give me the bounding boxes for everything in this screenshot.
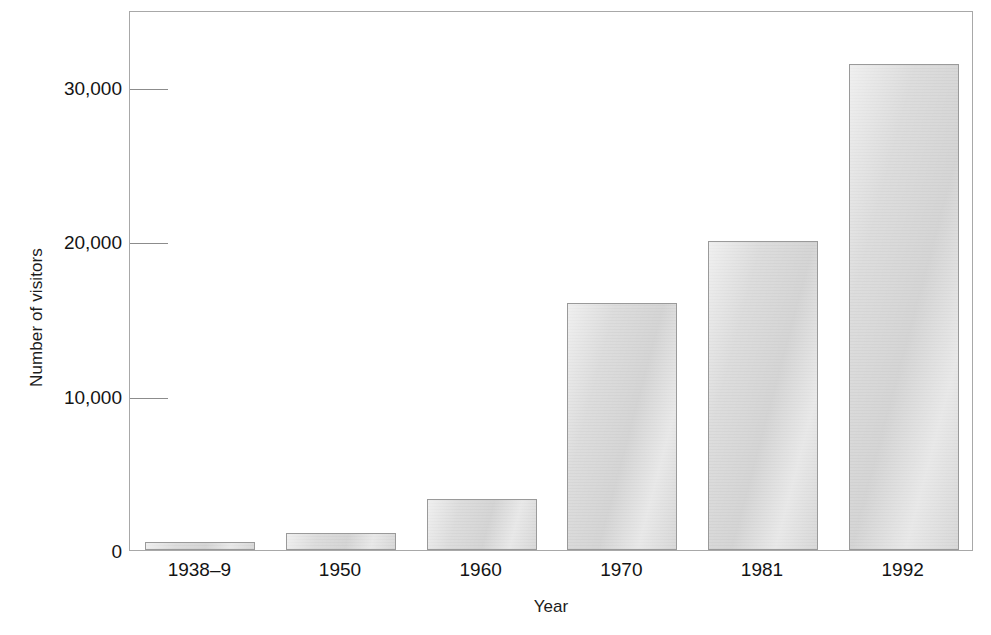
x-axis-tick-label: 1992	[832, 556, 973, 584]
bar	[145, 542, 255, 550]
y-axis-tick-mark	[130, 89, 168, 90]
y-axis-tick-mark	[130, 398, 168, 399]
bar	[427, 499, 537, 550]
y-axis-tick-label: 30,000	[10, 79, 122, 98]
bar	[849, 64, 959, 550]
x-axis-tick-labels: 1938–919501960197019811992	[129, 556, 973, 590]
y-axis-tick-labels: 010,00020,00030,000	[0, 0, 122, 635]
plot-frame	[129, 11, 973, 551]
y-axis-tick-mark	[130, 243, 168, 244]
y-axis-tick-label: 0	[10, 542, 122, 561]
y-axis-tick-label: 10,000	[10, 388, 122, 407]
bar	[567, 303, 677, 550]
x-axis-tick-label: 1970	[551, 556, 692, 584]
x-axis-tick-label: 1938–9	[129, 556, 270, 584]
plot-area	[130, 12, 972, 550]
bar-chart-figure: Number of visitors 010,00020,00030,000 1…	[0, 0, 991, 635]
x-axis-tick-label: 1950	[270, 556, 411, 584]
x-axis-tick-label: 1960	[410, 556, 551, 584]
bar	[708, 241, 818, 550]
bar	[286, 533, 396, 550]
y-axis-tick-label: 20,000	[10, 233, 122, 252]
x-axis-title: Year	[129, 596, 973, 618]
x-axis-tick-label: 1981	[692, 556, 833, 584]
